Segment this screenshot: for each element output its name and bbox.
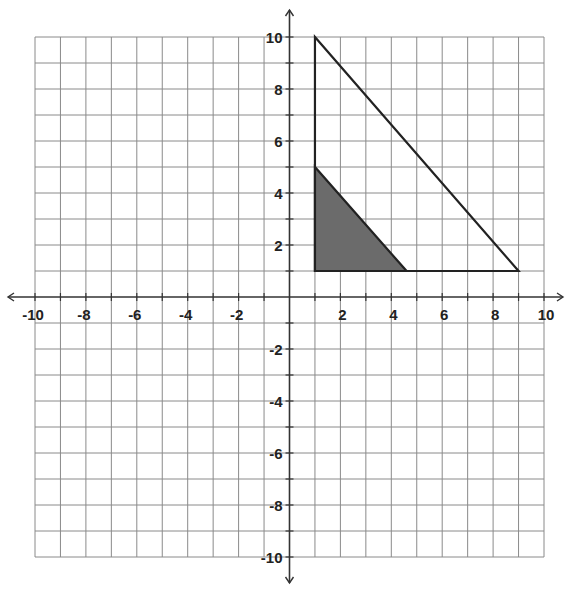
x-tick-label: -6 bbox=[128, 306, 141, 323]
y-tick-label: -2 bbox=[269, 341, 282, 358]
x-tick-label: 2 bbox=[338, 306, 346, 323]
y-tick-label: -10 bbox=[261, 549, 283, 566]
coordinate-plane: -10-8-6-4-2246810108642-2-4-6-8-10 bbox=[0, 0, 573, 590]
y-tick-label: 2 bbox=[274, 237, 282, 254]
axes bbox=[8, 10, 563, 583]
x-tick-label: -10 bbox=[22, 306, 44, 323]
y-tick-label: -4 bbox=[269, 393, 283, 410]
y-tick-label: -8 bbox=[269, 497, 282, 514]
x-tick-label: 4 bbox=[389, 306, 398, 323]
x-tick-label: -8 bbox=[77, 306, 90, 323]
x-tick-label: 6 bbox=[440, 306, 448, 323]
y-tick-label: 6 bbox=[274, 133, 282, 150]
x-tick-label: 8 bbox=[491, 306, 499, 323]
x-tick-label: 10 bbox=[538, 306, 555, 323]
y-tick-label: 8 bbox=[274, 81, 282, 98]
y-tick-label: -6 bbox=[269, 445, 282, 462]
x-tick-label: -2 bbox=[230, 306, 243, 323]
x-tick-label: -4 bbox=[179, 306, 193, 323]
y-tick-label: 4 bbox=[274, 185, 283, 202]
y-tick-label: 10 bbox=[266, 29, 283, 46]
